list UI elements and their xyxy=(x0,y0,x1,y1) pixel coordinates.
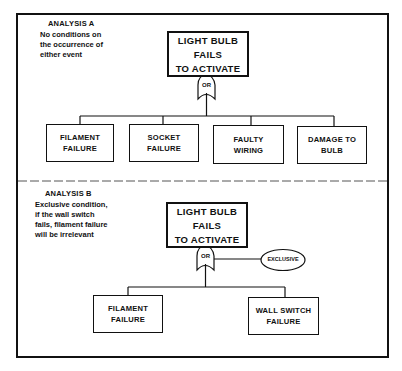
or-gate-icon: OR xyxy=(198,74,215,116)
analysis-a-description: No conditions on the occurrence of eithe… xyxy=(40,30,160,60)
top-event-b: LIGHT BULB FAILS TO ACTIVATE xyxy=(166,202,248,248)
analysis-a-title: ANALYSIS A xyxy=(48,19,160,28)
top-event-a: LIGHT BULB FAILS TO ACTIVATE xyxy=(167,31,249,77)
analysis-a-notes: ANALYSIS A No conditions on the occurren… xyxy=(40,19,160,60)
basic-event-wall-switch-failure: WALL SWITCH FAILURE xyxy=(248,297,319,335)
basic-event-socket-failure: SOCKET FAILURE xyxy=(129,124,199,162)
gate-a-label: OR xyxy=(202,82,212,88)
analysis-b-notes: ANALYSIS B Exclusive condition, if the w… xyxy=(35,189,165,240)
gate-b-label: OR xyxy=(201,253,211,259)
basic-event-filament-failure-b: FILAMENT FAILURE xyxy=(93,295,163,333)
basic-event-faulty-wiring: FAULTY WIRING xyxy=(213,125,284,164)
analysis-b-description: Exclusive condition, if the wall switch … xyxy=(35,200,165,240)
or-gate-icon: OR xyxy=(197,245,214,287)
exclusive-condition-label: EXCLUSIVE xyxy=(261,256,305,262)
basic-event-damage-to-bulb: DAMAGE TO BULB xyxy=(297,126,367,164)
basic-event-filament-failure-a: FILAMENT FAILURE xyxy=(46,124,114,162)
analysis-b-title: ANALYSIS B xyxy=(45,189,165,198)
